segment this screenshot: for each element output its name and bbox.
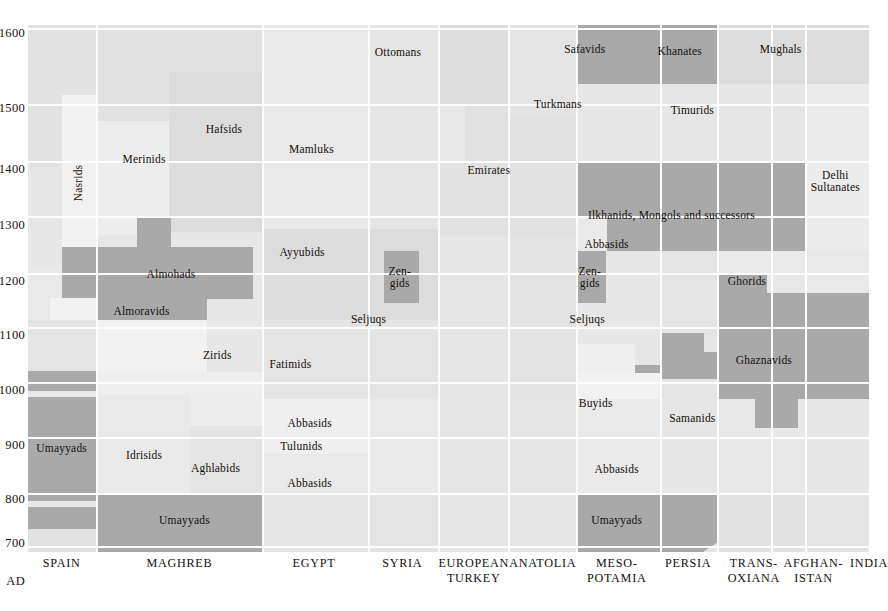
band-maghreb-hafsids — [169, 72, 262, 231]
band-meso-zengids — [576, 251, 605, 304]
band-spain-mid — [28, 167, 62, 266]
band-anatolia-seljuqs — [508, 235, 576, 399]
x-tick-afghan: AFGHAN- ISTAN — [784, 556, 844, 587]
band-transox-timurids — [738, 84, 805, 161]
x-tick-transox: TRANS- OXIANA — [728, 556, 780, 587]
band-syria-umayyads — [368, 494, 439, 552]
band-egypt-mamluks — [262, 25, 368, 229]
band-maghreb-umayyads — [96, 494, 262, 552]
x-axis: SPAIN MAGHREB EGYPT SYRIA EUROPEAN TURKE… — [28, 556, 869, 602]
band-india-delhi-upper — [805, 84, 869, 161]
band-egypt-tulunids — [262, 399, 368, 454]
band-afghan-ghaznavid-tail — [717, 251, 805, 276]
band-egypt-fatimids — [262, 320, 368, 399]
band-spain-umayyads-a — [28, 371, 96, 391]
band-afghan-samanids — [805, 399, 869, 494]
band-egypt-bottom — [262, 494, 368, 552]
y-axis-era-label: AD — [6, 573, 25, 588]
band-maghreb-zirids-c — [207, 341, 262, 372]
band-afghan-ghorids-step — [717, 275, 767, 315]
band-maghreb-almohads-hi — [137, 216, 171, 248]
band-afghan-umayyad-block — [717, 494, 805, 552]
y-tick: 700 — [5, 535, 25, 550]
x-tick-egypt: EGYPT — [293, 556, 336, 571]
band-syria-seljuqs — [368, 320, 439, 399]
x-tick-meso: MESO- POTAMIA — [587, 556, 646, 587]
band-maghreb-almohads-lo — [96, 299, 207, 320]
band-transox-samanid-dark — [660, 352, 716, 379]
y-tick: 1000 — [0, 383, 25, 398]
x-tick-india: INDIA — [850, 556, 888, 571]
band-euroturkey-lower — [438, 236, 508, 552]
band-afghan-umayyads — [805, 494, 869, 552]
band-euroturkey-byzantine — [438, 104, 465, 162]
band-persia-turkmans — [660, 84, 737, 161]
y-tick: 800 — [5, 491, 25, 506]
band-egypt-abbasids — [262, 455, 368, 495]
band-maghreb-idrisids — [96, 395, 190, 494]
band-euroturkey-ottomans — [438, 25, 508, 104]
band-meso-abbasids-2 — [576, 399, 660, 494]
band-india-ghaznavids-left — [717, 315, 805, 399]
band-meso-buyids-pale — [576, 344, 635, 373]
band-meso-umayyads — [576, 494, 660, 552]
y-tick: 1100 — [0, 327, 25, 342]
band-maghreb-aghlabids — [190, 426, 261, 495]
band-syria-zengids — [384, 251, 419, 304]
band-maghreb-pre-aghlab — [190, 395, 261, 426]
x-tick-maghreb: MAGHREB — [146, 556, 212, 571]
x-tick-euroturkey: EUROPEAN TURKEY — [438, 556, 509, 587]
band-maghreb-zirids-a — [96, 320, 207, 372]
band-spain-umayyads-c — [28, 507, 96, 529]
y-tick: 1400 — [0, 161, 25, 176]
band-india-ghaznavids — [805, 293, 869, 399]
x-tick-spain: SPAIN — [43, 556, 81, 571]
y-tick: 1500 — [0, 101, 25, 116]
band-persia-buyids-pale — [576, 373, 660, 399]
band-maghreb-zirids-b — [96, 372, 262, 395]
x-tick-persia: PERSIA — [665, 556, 711, 571]
y-tick: 1600 — [0, 25, 25, 40]
y-tick: 1300 — [0, 217, 25, 232]
band-spain-umayyads-b — [28, 397, 96, 502]
band-spain-bottom — [28, 529, 96, 552]
y-tick: 900 — [5, 438, 25, 453]
y-tick: 1200 — [0, 273, 25, 288]
band-maghreb-almohads — [96, 247, 252, 299]
band-india-mughals-outer — [805, 25, 869, 84]
band-meso-safavids — [576, 25, 660, 84]
y-axis: 1600 1500 1400 1300 1200 1100 1000 900 8… — [0, 25, 28, 552]
band-anatolia-upper — [508, 25, 576, 118]
band-meso-abbasids — [576, 217, 607, 251]
band-syria-upper — [368, 25, 439, 229]
band-meso-turkmans — [576, 84, 660, 161]
band-syria-abbasids — [368, 399, 439, 494]
band-afghan-ilkhanid-ext — [717, 161, 805, 251]
band-egypt-ayyubids — [262, 229, 368, 320]
band-afghan-ghorids — [805, 251, 869, 293]
plot-area: Ottomans Safavids Khanates Mughals Turkm… — [28, 25, 869, 552]
x-tick-syria: SYRIA — [382, 556, 422, 571]
band-anatolia-emirates — [508, 118, 576, 235]
band-india-delhi-sultanates — [805, 161, 869, 251]
x-tick-anatolia: ANATOLIA — [509, 556, 576, 571]
band-spain-nasrids — [62, 95, 96, 268]
band-afghan-samanid-dark — [755, 399, 797, 428]
band-india-mughals — [717, 25, 805, 84]
band-anatolia-lower — [508, 399, 576, 552]
band-spain-lower-light — [28, 320, 96, 372]
